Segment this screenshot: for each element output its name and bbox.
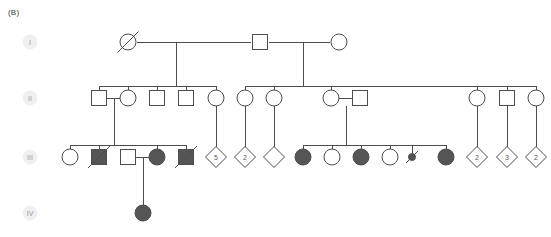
pedigree-symbol-III-16[interactable]: 3 bbox=[497, 147, 518, 168]
generation-label: I bbox=[29, 39, 31, 46]
unaffected-male-icon bbox=[179, 91, 194, 106]
pedigree-symbol-II-8[interactable] bbox=[323, 90, 339, 106]
sibship-count-label: 3 bbox=[505, 154, 509, 161]
pedigree-symbol-II-7[interactable] bbox=[266, 90, 282, 106]
pedigree-symbol-II-6[interactable] bbox=[237, 90, 253, 106]
unaffected-male-icon bbox=[150, 91, 165, 106]
unaffected-female-icon bbox=[528, 90, 544, 106]
sibship-count-label: 2 bbox=[534, 154, 538, 161]
pedigree-symbol-I-1[interactable] bbox=[118, 32, 139, 53]
pedigree-chart-panel: (B) 52232 IIIIIIIV bbox=[0, 0, 551, 237]
pedigree-symbol-II-4[interactable] bbox=[179, 91, 194, 106]
unaffected-female-icon bbox=[323, 90, 339, 106]
unaffected-female-icon bbox=[324, 149, 340, 165]
generation-label: IV bbox=[27, 210, 34, 217]
pedigree-symbol-III-2[interactable] bbox=[88, 146, 110, 168]
generation-badge-II: II bbox=[23, 91, 38, 106]
generation-label: II bbox=[28, 95, 32, 102]
unaffected-male-icon bbox=[92, 91, 107, 106]
generation-badge-IV: IV bbox=[23, 206, 38, 221]
pedigree-symbol-III-17[interactable]: 2 bbox=[526, 147, 547, 168]
unaffected-male-icon bbox=[121, 150, 136, 165]
pedigree-symbol-II-3[interactable] bbox=[150, 91, 165, 106]
pedigree-symbol-II-11[interactable] bbox=[500, 91, 515, 106]
affected-female-icon bbox=[149, 149, 165, 165]
pedigree-symbol-III-6[interactable]: 5 bbox=[206, 147, 227, 168]
unaffected-female-icon bbox=[382, 149, 398, 165]
unknown-sex-sibship-icon bbox=[264, 147, 285, 168]
pedigree-symbol-I-2[interactable] bbox=[253, 35, 268, 50]
pedigree-symbol-I-3[interactable] bbox=[331, 34, 347, 50]
pedigree-symbol-IV-1[interactable] bbox=[135, 205, 151, 221]
unaffected-female-icon bbox=[469, 90, 485, 106]
pedigree-symbol-III-9[interactable] bbox=[295, 149, 311, 165]
pedigree-symbol-III-1[interactable] bbox=[62, 149, 78, 165]
symbol-layer: 52232 bbox=[62, 32, 547, 222]
sibship-count-label: 2 bbox=[243, 154, 247, 161]
unaffected-female-icon bbox=[266, 90, 282, 106]
pedigree-symbol-III-11[interactable] bbox=[353, 149, 369, 165]
generation-label-layer: IIIIIIIV bbox=[23, 35, 38, 221]
unaffected-male-icon bbox=[500, 91, 515, 106]
pedigree-symbol-III-8[interactable] bbox=[264, 147, 285, 168]
sibship-count-label: 2 bbox=[475, 154, 479, 161]
generation-badge-III: III bbox=[23, 150, 38, 165]
pedigree-symbol-III-14[interactable] bbox=[438, 149, 454, 165]
pedigree-symbol-III-7[interactable]: 2 bbox=[235, 147, 256, 168]
pedigree-symbol-II-12[interactable] bbox=[528, 90, 544, 106]
unaffected-female-icon bbox=[331, 34, 347, 50]
unaffected-female-icon bbox=[208, 90, 224, 106]
generation-badge-I: I bbox=[23, 35, 38, 50]
pedigree-symbol-II-10[interactable] bbox=[469, 90, 485, 106]
pedigree-symbol-II-5[interactable] bbox=[208, 90, 224, 106]
pedigree-symbol-II-9[interactable] bbox=[353, 91, 368, 106]
pedigree-symbol-III-15[interactable]: 2 bbox=[467, 147, 488, 168]
pedigree-symbol-III-4[interactable] bbox=[149, 149, 165, 165]
generation-label: III bbox=[27, 154, 33, 161]
affected-female-icon bbox=[135, 205, 151, 221]
unaffected-male-icon bbox=[353, 91, 368, 106]
unaffected-female-icon bbox=[237, 90, 253, 106]
pedigree-symbol-II-1[interactable] bbox=[92, 91, 107, 106]
pedigree-symbol-III-10[interactable] bbox=[324, 149, 340, 165]
pedigree-symbol-III-3[interactable] bbox=[121, 150, 136, 165]
affected-female-icon bbox=[295, 149, 311, 165]
pedigree-symbol-III-5[interactable] bbox=[175, 146, 197, 168]
pedigree-symbol-III-12[interactable] bbox=[382, 149, 398, 165]
affected-female-icon bbox=[438, 149, 454, 165]
affected-female-icon bbox=[353, 149, 369, 165]
connector-layer bbox=[70, 42, 536, 206]
unaffected-male-icon bbox=[253, 35, 268, 50]
pedigree-symbol-II-2[interactable] bbox=[120, 90, 136, 106]
sibship-count-label: 5 bbox=[214, 154, 218, 161]
pedigree-diagram: 52232 IIIIIIIV bbox=[0, 0, 551, 237]
unaffected-female-icon bbox=[62, 149, 78, 165]
unaffected-female-icon bbox=[120, 90, 136, 106]
